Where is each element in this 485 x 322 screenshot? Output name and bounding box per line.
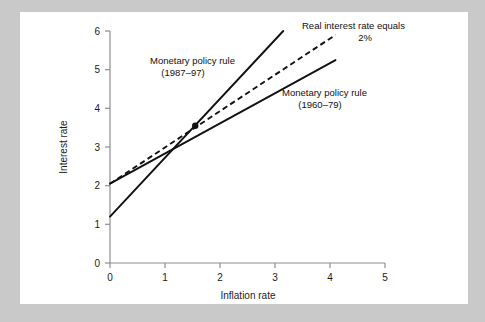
- figure-root: 6 5 4 3 2 1 0 0 1 2 3 4 5 Inflation rate…: [0, 0, 485, 322]
- annotation-policy-rule-1987-line1: Monetary policy rule: [150, 55, 235, 66]
- x-tick-label-5: 5: [382, 272, 388, 283]
- y-tick-label-4: 4: [94, 103, 100, 114]
- x-tick-label-4: 4: [327, 272, 333, 283]
- annotation-real-interest-rate: Real interest rate equals 2%: [302, 20, 405, 43]
- y-tick-label-5: 5: [94, 64, 100, 75]
- annotation-policy-rule-1987-line2: (1987–97): [161, 67, 204, 78]
- annotation-policy-rule-1960: Monetary policy rule (1960–79): [282, 87, 367, 110]
- y-tick-label-0: 0: [94, 258, 100, 269]
- y-tick-label-3: 3: [94, 142, 100, 153]
- x-tick-labels: 0 1 2 3 4 5: [107, 272, 388, 283]
- x-tick-label-2: 2: [217, 272, 223, 283]
- x-axis-title: Inflation rate: [220, 290, 275, 301]
- y-tick-labels: 6 5 4 3 2 1 0: [94, 26, 100, 269]
- x-tick-label-0: 0: [107, 272, 113, 283]
- y-axis: [105, 31, 110, 263]
- y-tick-label-1: 1: [94, 219, 100, 230]
- x-axis: [110, 263, 385, 268]
- y-axis-title: Interest rate: [58, 120, 69, 174]
- plot-card: 6 5 4 3 2 1 0 0 1 2 3 4 5 Inflation rate…: [20, 12, 468, 304]
- annotation-real-rate-line1: Real interest rate equals: [302, 20, 405, 31]
- annotation-policy-rule-1960-line1: Monetary policy rule: [282, 87, 367, 98]
- intersection-point-marker: [192, 123, 198, 129]
- chart-canvas: 6 5 4 3 2 1 0 0 1 2 3 4 5 Inflation rate…: [20, 12, 468, 304]
- y-tick-label-6: 6: [94, 26, 100, 37]
- series-monetary-policy-rule-1960: [110, 60, 336, 184]
- annotation-policy-rule-1987: Monetary policy rule (1987–97): [150, 55, 235, 78]
- y-tick-label-2: 2: [94, 180, 100, 191]
- annotation-real-rate-line2: 2%: [358, 32, 372, 43]
- x-tick-label-1: 1: [162, 272, 168, 283]
- annotation-policy-rule-1960-line2: (1960–79): [298, 99, 341, 110]
- x-tick-label-3: 3: [272, 272, 278, 283]
